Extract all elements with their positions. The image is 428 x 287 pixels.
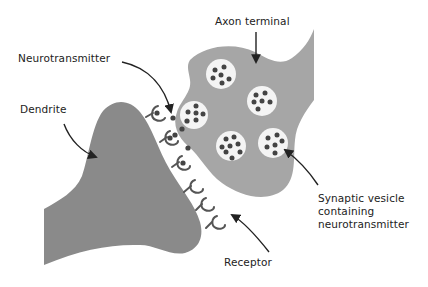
neurotransmitter-label: Neurotransmitter	[18, 52, 110, 64]
axon-terminal-label: Axon terminal	[215, 15, 290, 27]
vesicle	[216, 131, 246, 161]
receptor-label: Receptor	[224, 256, 272, 268]
synaptic-vesicle-label-line2: containing	[318, 205, 374, 217]
receptor	[206, 216, 225, 229]
receptor	[184, 180, 203, 193]
synapse-diagram	[0, 0, 428, 287]
receptor-arrow	[232, 215, 269, 252]
receptor	[172, 156, 190, 170]
vesicle	[247, 86, 277, 116]
vesicle	[258, 128, 288, 158]
receptor	[196, 198, 214, 211]
receptor	[146, 106, 165, 121]
dendrite-label: Dendrite	[20, 103, 66, 115]
vesicle	[206, 59, 236, 89]
vesicle	[180, 101, 208, 129]
synaptic-vesicle-label-line3: neurotransmitter	[318, 218, 409, 230]
synaptic-vesicle-label-line1: Synaptic vesicle	[318, 192, 405, 204]
